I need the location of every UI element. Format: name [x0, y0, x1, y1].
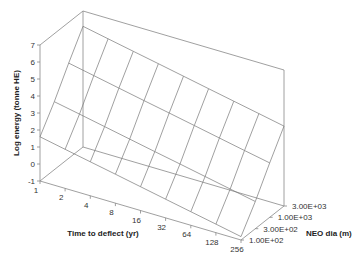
x-tick-label: 4 — [84, 201, 89, 210]
mesh-row-segment — [158, 64, 183, 76]
z-axis-ticks: -101234567 — [28, 41, 40, 186]
mesh-row-segment — [166, 199, 191, 212]
mesh-row-segment — [191, 212, 216, 224]
y-tick-label: 3.00E+02 — [263, 225, 298, 234]
mesh-row-segment — [105, 127, 130, 140]
mesh-col-segment — [205, 138, 219, 177]
mesh-col-segment — [94, 39, 108, 76]
mesh-col-segment — [180, 126, 194, 165]
mesh-col-segment — [245, 114, 259, 151]
mesh-row-segment — [94, 76, 119, 89]
mesh-row-segment — [83, 26, 108, 39]
mesh-row-segment — [141, 187, 166, 200]
mesh-col-segment — [191, 177, 205, 212]
z-tick-label: 0 — [31, 160, 36, 169]
mesh-col-segment — [255, 163, 269, 202]
mesh-col-segment — [219, 101, 233, 138]
x-tick-label: 128 — [205, 238, 219, 247]
mesh-row-segment — [155, 152, 180, 164]
mesh-col-segment — [115, 139, 129, 174]
z-tick-label: 6 — [31, 58, 36, 67]
mesh-col-segment — [230, 151, 244, 190]
mesh-col-segment — [241, 202, 255, 237]
x-tick-label: 1 — [34, 186, 39, 195]
y-axis-ticks: 1.00E+023.00E+021.00E+033.00E+03 — [241, 202, 327, 245]
z-tick-label: 1 — [31, 143, 36, 152]
surface-mesh — [40, 26, 284, 236]
mesh-row-segment — [259, 114, 284, 127]
z-tick-label: -1 — [28, 177, 36, 186]
mesh-row-segment — [234, 101, 259, 113]
x-tick-label: 16 — [132, 216, 141, 225]
mesh-col-segment — [119, 51, 133, 88]
top-left-edge — [40, 11, 83, 45]
mesh-row-segment — [184, 76, 209, 89]
mesh-col-segment — [155, 113, 169, 152]
x-tick-label: 8 — [109, 208, 114, 217]
x-axis-ticks: 1248163264128256 — [34, 181, 244, 254]
x-tick-label: 2 — [59, 193, 64, 202]
mesh-row-segment — [54, 102, 79, 114]
y-tick-label: 3.00E+03 — [292, 202, 327, 211]
mesh-row-segment — [219, 138, 244, 151]
mesh-col-segment — [105, 88, 119, 127]
mesh-col-segment — [69, 26, 83, 63]
mesh-row-segment — [119, 88, 144, 101]
mesh-col-segment — [166, 164, 180, 199]
y-axis-title: NEO dia (m) — [306, 229, 352, 238]
y-tick-label: 1.00E+03 — [278, 213, 313, 222]
mesh-row-segment — [245, 151, 270, 163]
mesh-col-segment — [144, 64, 158, 101]
mesh-row-segment — [130, 139, 155, 152]
mesh-row-segment — [169, 113, 194, 126]
mesh-row-segment — [205, 177, 230, 190]
mesh-row-segment — [69, 63, 94, 76]
z-tick-label: 4 — [31, 92, 36, 101]
mesh-col-segment — [40, 102, 54, 137]
mesh-row-segment — [40, 137, 65, 150]
chart-box — [40, 11, 284, 240]
mesh-row-segment — [230, 189, 255, 202]
mesh-row-segment — [108, 39, 133, 52]
mesh-col-segment — [54, 63, 68, 102]
mesh-row-segment — [115, 174, 140, 187]
z-tick-label: 5 — [31, 75, 36, 84]
mesh-col-segment — [65, 114, 79, 149]
z-tick-label: 7 — [31, 41, 36, 50]
z-tick-label: 3 — [31, 109, 36, 118]
y-tick-label: 1.00E+02 — [249, 236, 284, 245]
mesh-row-segment — [90, 162, 115, 174]
mesh-row-segment — [194, 126, 219, 139]
floor-back-edge — [83, 147, 284, 206]
x-axis-title: Time to deflect (yr) — [67, 229, 139, 238]
mesh-col-segment — [130, 101, 144, 140]
mesh-row-segment — [216, 224, 241, 237]
mesh-col-segment — [194, 89, 208, 126]
mesh-col-segment — [80, 76, 94, 115]
floor-left-edge — [40, 147, 83, 181]
mesh-col-segment — [90, 127, 104, 162]
z-axis-title: Log energy (tonne HE) — [12, 70, 21, 156]
x-tick-label: 64 — [182, 230, 191, 239]
top-back-edge — [83, 11, 284, 70]
z-tick-label: 2 — [31, 126, 36, 135]
mesh-col-segment — [141, 152, 155, 187]
mesh-row-segment — [209, 89, 234, 102]
x-tick-label: 32 — [157, 223, 166, 232]
mesh-row-segment — [144, 101, 169, 113]
mesh-col-segment — [270, 126, 284, 163]
floor-right-edge — [241, 206, 284, 240]
x-tick-label: 256 — [230, 245, 244, 254]
mesh-row-segment — [180, 164, 205, 177]
surface-chart: -101234567 1248163264128256 1.00E+023.00… — [0, 0, 360, 261]
mesh-col-segment — [216, 189, 230, 224]
mesh-col-segment — [169, 76, 183, 113]
mesh-row-segment — [133, 51, 158, 63]
